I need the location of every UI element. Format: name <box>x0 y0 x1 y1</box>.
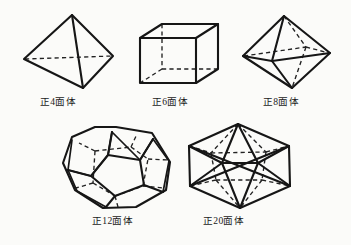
label-dodecahedron: 正12面体 <box>92 216 133 226</box>
platonic-solids-figure: 正4面体 正6面体 正8面体 正12面体 正20面体 <box>0 0 351 245</box>
label-tetrahedron: 正4面体 <box>40 97 76 107</box>
label-hexahedron: 正6面体 <box>152 97 188 107</box>
dodecahedron-drawing <box>63 127 170 208</box>
solids-illustration <box>0 0 351 245</box>
label-octahedron: 正8面体 <box>263 97 299 107</box>
hexahedron-drawing <box>140 24 218 83</box>
tetrahedron-drawing <box>24 15 113 88</box>
icosahedron-drawing <box>189 124 290 208</box>
label-icosahedron: 正20面体 <box>203 216 244 226</box>
octahedron-drawing <box>243 16 330 88</box>
